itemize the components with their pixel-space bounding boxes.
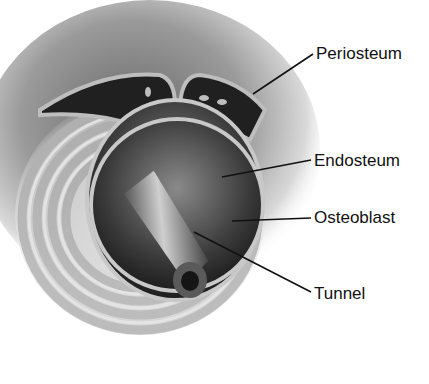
label-tunnel: Tunnel — [314, 285, 365, 302]
label-endosteum: Endosteum — [314, 152, 400, 169]
label-periosteum: Periosteum — [316, 45, 402, 62]
label-osteoblast: Osteoblast — [314, 209, 395, 226]
diagram-stage: Periosteum Endosteum Osteoblast Tunnel — [0, 0, 429, 384]
